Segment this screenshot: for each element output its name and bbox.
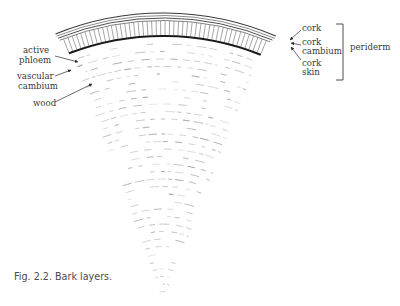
bark-layers-diagram: active phloem vascular cambium wood cork… bbox=[0, 0, 400, 306]
label-text: vascular bbox=[16, 71, 55, 81]
arrow-icon bbox=[291, 43, 301, 45]
periderm-bracket: periderm bbox=[336, 24, 390, 80]
label-vascular-cambium: vascular cambium bbox=[16, 70, 71, 91]
label-text: cork bbox=[302, 23, 322, 33]
label-text: skin bbox=[302, 67, 320, 77]
label-text: cambium bbox=[302, 46, 342, 56]
bracket-label: periderm bbox=[350, 42, 390, 52]
label-text: wood bbox=[33, 98, 57, 108]
label-text: active bbox=[23, 45, 49, 55]
label-active-phloem: active phloem bbox=[19, 45, 78, 65]
arrow-icon bbox=[55, 84, 92, 102]
label-cork-cambium: cork cambium bbox=[291, 37, 342, 56]
periderm-layers bbox=[56, 13, 276, 55]
figure-caption: Fig. 2.2. Bark layers. bbox=[14, 271, 112, 282]
label-text: phloem bbox=[19, 55, 51, 65]
cork-outer-line bbox=[56, 13, 276, 36]
arrow-icon bbox=[55, 56, 78, 62]
arrow-icon bbox=[55, 70, 71, 76]
arrow-icon bbox=[290, 30, 301, 40]
arrow-icon bbox=[291, 47, 301, 60]
active-phloem-layer bbox=[64, 21, 267, 54]
wood-rings bbox=[78, 44, 252, 292]
label-text: cambium bbox=[18, 81, 58, 91]
vascular-cambium-line bbox=[69, 36, 261, 55]
